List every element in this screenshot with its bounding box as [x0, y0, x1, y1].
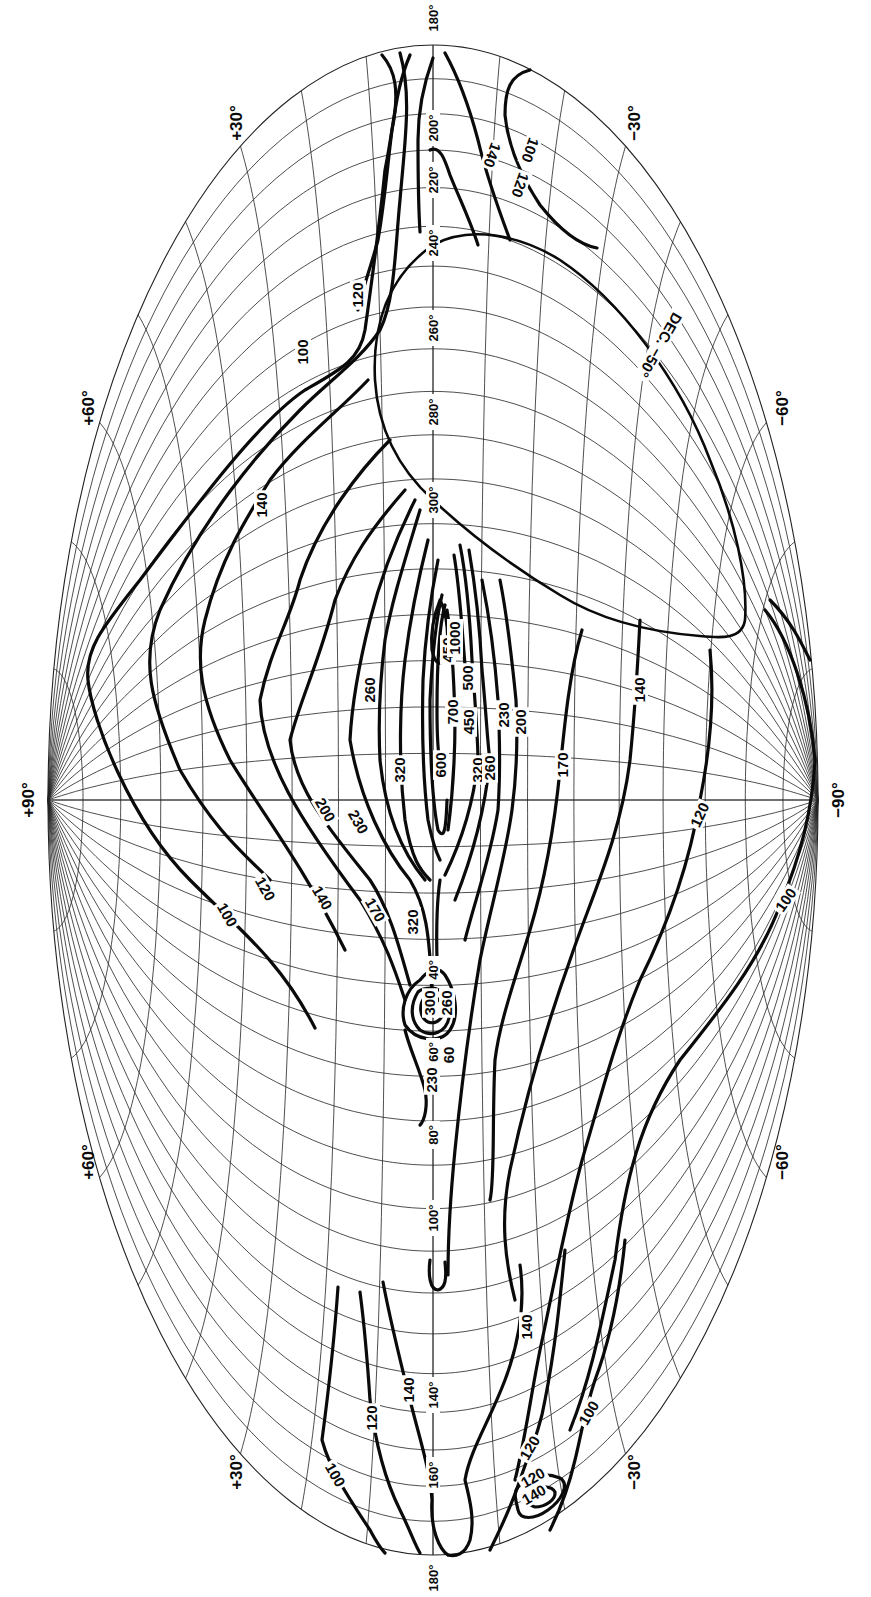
svg-text:DEC. −50°: DEC. −50°	[635, 310, 685, 380]
declination-limit-boundary	[375, 234, 746, 637]
contour-label: 100	[321, 1458, 350, 1492]
contour-label: 700	[444, 697, 461, 727]
svg-text:170: 170	[554, 752, 571, 777]
contour-label: 100	[294, 337, 311, 367]
contour-label: 230	[495, 700, 512, 730]
svg-text:160°: 160°	[426, 1462, 441, 1489]
svg-text:100: 100	[294, 339, 311, 364]
contour-labels: 100120140140120100DEC. −50°2603203206007…	[213, 133, 801, 1509]
svg-text:+60°: +60°	[79, 390, 98, 426]
svg-text:+30°: +30°	[227, 105, 246, 141]
longitude-label: 180°	[426, 1560, 441, 1596]
contour-label: DEC. −50°	[633, 306, 688, 384]
longitude-label: 140°	[426, 1377, 441, 1413]
latitude-label: +60°	[79, 390, 98, 426]
svg-text:60: 60	[440, 1047, 457, 1064]
galactic-contour-map: 100120140140120100DEC. −50°2603203206007…	[0, 0, 871, 1597]
longitude-label: 240°	[426, 225, 441, 261]
svg-text:260: 260	[481, 755, 498, 780]
longitude-label: 280°	[426, 394, 441, 430]
longitude-label: 80°	[426, 1121, 441, 1149]
contour-label: 60	[440, 1045, 457, 1066]
svg-text:−60°: −60°	[773, 390, 792, 426]
contour-140-lower-north	[383, 1282, 448, 1555]
svg-text:180°: 180°	[426, 5, 441, 32]
svg-text:40°: 40°	[426, 960, 441, 980]
contour-label: 120	[686, 798, 714, 832]
longitude-label: 40°	[426, 956, 441, 984]
contour-label: 100	[574, 1396, 603, 1430]
svg-text:1000: 1000	[446, 621, 463, 654]
longitude-label: 200°	[426, 110, 441, 146]
svg-text:+90°: +90°	[19, 782, 38, 818]
svg-text:−60°: −60°	[773, 1144, 792, 1180]
contour-label: 140	[518, 1312, 535, 1342]
longitude-label: 300°	[426, 482, 441, 518]
svg-text:−30°: −30°	[625, 105, 644, 141]
svg-text:140: 140	[631, 677, 648, 702]
contour-label: 320	[404, 907, 421, 937]
contour-label: 140	[400, 1375, 417, 1405]
latitude-label: +90°	[19, 782, 38, 818]
contour-lower-hook	[429, 1260, 445, 1290]
svg-text:260: 260	[361, 677, 378, 702]
contour-north-top-1	[358, 55, 396, 310]
latitude-label: +30°	[227, 105, 246, 141]
latitude-label: −30°	[625, 1454, 644, 1490]
svg-text:60°: 60°	[426, 1042, 441, 1062]
longitude-label: 180°	[426, 0, 441, 36]
contour-label: 500	[459, 663, 476, 693]
svg-text:100°: 100°	[426, 1205, 441, 1232]
svg-text:180°: 180°	[426, 1565, 441, 1592]
svg-text:230: 230	[495, 702, 512, 727]
contour-label: 300	[421, 988, 438, 1018]
contour-label: 260	[361, 675, 378, 705]
contour-100-north-upper	[88, 55, 410, 1028]
svg-text:80°: 80°	[426, 1125, 441, 1145]
longitude-label: 260°	[426, 310, 441, 346]
contour-label: 260	[481, 753, 498, 783]
contour-label: 320	[391, 755, 408, 785]
contour-label: 120	[507, 168, 533, 202]
contour-120-south	[515, 650, 712, 1480]
svg-text:300: 300	[421, 990, 438, 1015]
contour-label: 100	[517, 133, 543, 167]
contour-label: 600	[432, 750, 449, 780]
contour-40-stem	[437, 880, 440, 960]
contour-label: 120	[349, 280, 366, 310]
svg-text:120: 120	[349, 282, 366, 307]
svg-text:700: 700	[444, 699, 461, 724]
contour-140-north	[200, 380, 368, 950]
svg-text:500: 500	[459, 665, 476, 690]
svg-text:140: 140	[253, 492, 270, 517]
longitude-label: 100°	[426, 1200, 441, 1236]
svg-text:260: 260	[438, 990, 455, 1015]
svg-text:280°: 280°	[426, 399, 441, 426]
svg-text:450: 450	[460, 709, 477, 734]
contour-label: 1000	[446, 619, 463, 657]
svg-text:200°: 200°	[426, 115, 441, 142]
svg-text:140: 140	[400, 1377, 417, 1402]
contour-320-left	[400, 540, 430, 880]
latitude-label: +30°	[227, 1454, 246, 1490]
latitude-label: −90°	[829, 782, 848, 818]
svg-text:+30°: +30°	[227, 1454, 246, 1490]
contour-label: 140	[631, 675, 648, 705]
svg-text:140: 140	[518, 1314, 535, 1339]
svg-text:320: 320	[404, 909, 421, 934]
contour-label: 120	[251, 872, 280, 906]
latitude-label: −60°	[773, 390, 792, 426]
longitude-label: 60°	[426, 1038, 441, 1066]
svg-text:320: 320	[391, 757, 408, 782]
contour-700	[437, 605, 445, 775]
svg-text:+60°: +60°	[79, 1144, 98, 1180]
contour-label: 260	[438, 988, 455, 1018]
contour-label: 200	[512, 707, 529, 737]
svg-text:240°: 240°	[426, 230, 441, 257]
svg-text:230: 230	[423, 1067, 440, 1092]
contour-label: 450	[460, 707, 477, 737]
latitude-label: +60°	[79, 1144, 98, 1180]
latitude-label: −30°	[625, 105, 644, 141]
svg-text:600: 600	[432, 752, 449, 777]
svg-text:300°: 300°	[426, 487, 441, 514]
